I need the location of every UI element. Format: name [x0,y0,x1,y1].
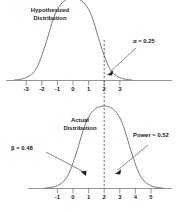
beta-annotation-label: β = 0.48 [11,145,33,151]
actual-distribution-label-line1: Actual [53,116,107,124]
hypothesized-distribution-label-line2: Distribution [20,14,80,22]
top-tick-label-4: 1 [84,86,94,92]
bottom-tick-label-4: 3 [115,194,125,200]
beta-leader-line [46,152,84,172]
top-tick-label-6: 3 [115,86,125,92]
bottom-tick-label-6: 5 [146,194,156,200]
bottom-tick-label-5: 4 [130,194,140,200]
top-tick-label-1: -2 [37,86,47,92]
alpha-arrowhead [107,71,113,76]
alpha-annotation-label: α = 0.25 [133,38,155,44]
power-analysis-figure: Hypothesized Distribution α = 0.25 -3 -2… [0,0,178,212]
top-tick-label-5: 2 [99,86,109,92]
bottom-tick-label-3: 2 [99,194,109,200]
bottom-axis-ticks [57,189,151,194]
hypothesized-distribution-label-line1: Hypothesized [20,6,80,14]
power-leader-line [118,145,148,170]
top-tick-label-2: -1 [52,86,62,92]
actual-distribution-label: Actual Distribution [53,116,107,132]
figure-canvas [0,0,178,212]
alpha-leader-line [110,48,136,72]
top-tick-label-3: 0 [68,86,78,92]
bottom-tick-label-2: 1 [84,194,94,200]
top-axis-ticks [26,81,120,86]
power-annotation-label: Power = 0.52 [133,132,169,138]
actual-distribution-label-line2: Distribution [53,124,107,132]
top-tick-label-0: -3 [21,86,31,92]
bottom-tick-label-0: -1 [52,194,62,200]
hypothesized-distribution-label: Hypothesized Distribution [20,6,80,22]
bottom-tick-label-1: 0 [68,194,78,200]
beta-arrowhead [81,171,87,176]
